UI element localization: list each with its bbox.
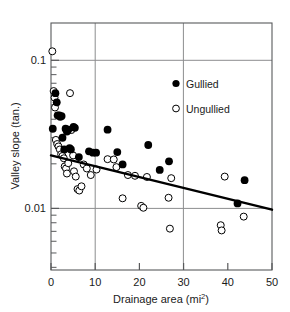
data-point-gullied xyxy=(49,125,57,133)
data-point-ungullied xyxy=(165,194,172,201)
data-point-gullied xyxy=(241,176,249,184)
x-tick-label-20: 20 xyxy=(133,276,145,288)
data-point-ungullied xyxy=(63,170,70,177)
data-point-ungullied xyxy=(166,225,173,232)
x-axis-title-tail: ) xyxy=(205,293,209,305)
chart-figure: 0.1 0.01 01020304050 Valley slope (tan.)… xyxy=(0,0,290,312)
data-point-gullied xyxy=(53,98,61,106)
legend-label-gullied: Gullied xyxy=(186,78,219,90)
data-point-ungullied xyxy=(240,213,247,220)
x-tick-label-0: 0 xyxy=(48,276,54,288)
data-point-gullied xyxy=(119,161,127,169)
legend-label-ungullied: Ungullied xyxy=(186,103,230,115)
valley-slope-vs-drainage-area-scatter-plot: 0.1 0.01 01020304050 Valley slope (tan.)… xyxy=(0,0,290,312)
data-point-gullied xyxy=(75,153,83,161)
data-point-ungullied xyxy=(83,165,90,172)
x-tick-label-40: 40 xyxy=(222,276,234,288)
data-point-ungullied xyxy=(221,173,228,180)
data-point-ungullied xyxy=(78,183,85,190)
data-point-ungullied xyxy=(87,172,94,179)
data-point-gullied xyxy=(67,146,75,154)
data-point-ungullied xyxy=(119,195,126,202)
data-point-ungullied xyxy=(49,48,56,55)
x-axis-title: Drainage area (mi2) xyxy=(113,292,209,305)
data-point-gullied xyxy=(52,89,60,97)
legend-marker-ungullied-open-circle-icon xyxy=(173,105,180,112)
y-tick-label-0.1: 0.1 xyxy=(31,54,46,66)
data-point-gullied xyxy=(113,148,121,156)
data-point-gullied xyxy=(104,126,112,134)
data-point-gullied xyxy=(165,157,173,165)
x-axis-tick-labels: 01020304050 xyxy=(48,276,278,288)
data-point-ungullied xyxy=(72,173,79,180)
x-tick-label-10: 10 xyxy=(89,276,101,288)
x-axis-title-base: Drainage area (mi xyxy=(113,293,201,305)
data-point-gullied xyxy=(58,112,66,120)
y-axis-title: Valley slope (tan.) xyxy=(9,102,21,189)
legend-marker-gullied-filled-circle-icon xyxy=(172,80,179,87)
data-point-ungullied xyxy=(140,204,147,211)
data-point-ungullied xyxy=(218,227,225,234)
data-point-ungullied xyxy=(110,156,117,163)
data-point-ungullied xyxy=(67,90,74,97)
data-point-gullied xyxy=(144,141,152,149)
y-tick-label-0.01: 0.01 xyxy=(25,202,46,214)
data-point-gullied xyxy=(156,166,164,174)
data-point-ungullied xyxy=(168,175,175,182)
data-point-gullied xyxy=(71,124,79,132)
data-point-gullied xyxy=(92,149,100,157)
x-tick-label-30: 30 xyxy=(177,276,189,288)
x-tick-label-50: 50 xyxy=(266,276,278,288)
